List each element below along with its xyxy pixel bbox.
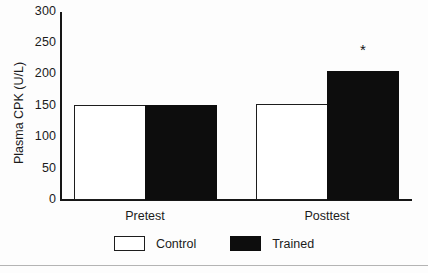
figure-bottom-rule [0,265,428,266]
legend-entry-control: Control [114,236,196,251]
figure-container: Plasma CPK (U/L) 300 250 200 150 100 50 … [0,0,428,273]
chart-legend: Control Trained [0,236,428,251]
significance-asterisk: * [348,42,378,57]
x-category-label-posttest: Posttest [277,209,377,223]
legend-swatch-white-square-icon [114,236,145,251]
bar-pretest-control [74,105,146,200]
legend-label-trained: Trained [272,237,314,251]
legend-swatch-black-square-icon [230,236,261,251]
x-category-label-pretest: Pretest [95,209,195,223]
y-axis-line [60,12,62,201]
bar-chart-plot-area: Plasma CPK (U/L) 300 250 200 150 100 50 … [0,0,428,273]
bar-posttest-trained [327,71,399,200]
legend-entry-trained: Trained [230,236,314,251]
legend-label-control: Control [156,237,196,251]
bar-posttest-control [256,104,328,200]
bar-pretest-trained [145,105,217,200]
